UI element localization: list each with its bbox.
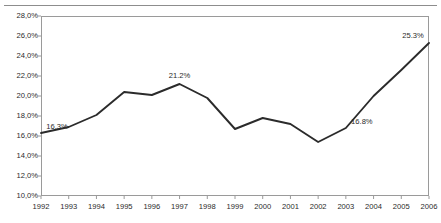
data-point-label: 21.2% (169, 71, 191, 80)
data-point-label: 16.3% (46, 122, 68, 131)
data-point-label: 25.3% (402, 31, 424, 40)
data-point-labels: 16.3%21.2%16.8%25.3% (0, 0, 441, 223)
line-chart-figure: 28,0%26,0%24,0%22,0%20,0%18,0%16,0%14,0%… (0, 0, 441, 223)
data-point-label: 16.8% (351, 117, 373, 126)
